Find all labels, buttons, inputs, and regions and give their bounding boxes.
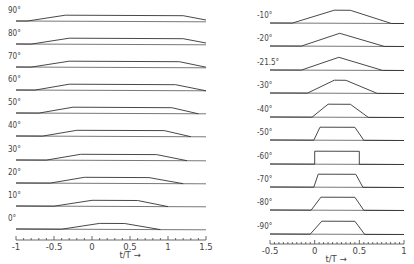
- trace-row: -80°: [257, 197, 404, 210]
- row-label: -80°: [257, 198, 272, 207]
- trace-line: [16, 38, 206, 44]
- trace-line: [16, 15, 206, 21]
- row-label: 40°: [8, 121, 21, 130]
- row-label: 60°: [8, 75, 21, 84]
- x-axis: -1-0.500.511.5t/T →: [12, 236, 213, 260]
- trace-row: -30°: [257, 80, 404, 93]
- trace-row: -70°: [257, 174, 404, 187]
- tick-label: -1: [12, 242, 20, 252]
- trace-line: [270, 151, 404, 164]
- row-label: 50°: [8, 98, 21, 107]
- trace-row: 20°: [8, 168, 206, 184]
- trace-row: -60°: [257, 151, 404, 164]
- tick-label: -0.5: [46, 242, 63, 252]
- row-label: 10°: [8, 191, 21, 200]
- row-label: 0°: [8, 214, 16, 223]
- trace-row: -10°: [257, 10, 404, 23]
- row-label: -21.5°: [257, 58, 279, 67]
- tick-label: 0: [312, 246, 317, 256]
- baseline: [16, 44, 206, 45]
- x-axis: -0.500.51t/T →: [262, 240, 407, 264]
- left-panel: 90°80°70°60°50°40°30°20°10°0°-1-0.500.51…: [8, 6, 213, 260]
- baseline: [16, 90, 206, 91]
- trace-line: [16, 200, 168, 206]
- trace-line: [270, 80, 404, 93]
- row-label: 90°: [8, 6, 21, 15]
- trace-row: 70°: [8, 52, 206, 68]
- trace-line: [270, 33, 404, 46]
- trace-row: 90°: [8, 6, 206, 22]
- trace-row: -21.5°: [257, 57, 404, 70]
- trace-row: 10°: [8, 191, 206, 207]
- trace-line: [270, 197, 404, 210]
- chart-canvas: 90°80°70°60°50°40°30°20°10°0°-1-0.500.51…: [0, 0, 414, 264]
- row-label: -70°: [257, 175, 272, 184]
- trace-row: -40°: [257, 104, 404, 117]
- trace-line: [16, 223, 160, 229]
- trace-line: [270, 57, 404, 70]
- tick-label: -0.5: [262, 246, 279, 256]
- tick-label: 0.5: [353, 246, 367, 256]
- trace-line: [16, 177, 183, 183]
- trace-row: 40°: [8, 121, 206, 137]
- row-label: 80°: [8, 29, 21, 38]
- row-label: 70°: [8, 52, 21, 61]
- trace-line: [270, 104, 404, 117]
- x-axis-label: t/T →: [325, 254, 346, 264]
- row-label: -60°: [257, 152, 272, 161]
- baseline: [16, 67, 206, 68]
- trace-row: 30°: [8, 145, 206, 161]
- trace-row: 60°: [8, 75, 206, 91]
- trace-line: [270, 221, 404, 234]
- trace-row: 0°: [8, 214, 206, 230]
- trace-line: [270, 10, 404, 23]
- row-label: -20°: [257, 34, 272, 43]
- row-label: -10°: [257, 11, 272, 20]
- trace-line: [16, 154, 187, 160]
- row-label: -30°: [257, 81, 272, 90]
- trace-line: [16, 61, 206, 67]
- row-label: -40°: [257, 105, 272, 114]
- baseline: [16, 21, 206, 22]
- row-label: 20°: [8, 168, 21, 177]
- row-label: -50°: [257, 128, 272, 137]
- x-axis-label: t/T →: [119, 250, 140, 260]
- tick-label: 1: [401, 246, 406, 256]
- trace-row: -90°: [257, 221, 404, 234]
- row-label: -90°: [257, 222, 272, 231]
- trace-line: [270, 174, 404, 187]
- trace-row: -20°: [257, 33, 404, 46]
- trace-row: 80°: [8, 29, 206, 45]
- right-panel: -10°-20°-21.5°-30°-40°-50°-60°-70°-80°-9…: [257, 10, 407, 264]
- trace-row: -50°: [257, 127, 404, 140]
- trace-line: [16, 130, 191, 136]
- tick-label: 1.5: [199, 242, 213, 252]
- trace-row: 50°: [8, 98, 206, 114]
- row-label: 30°: [8, 145, 21, 154]
- baseline: [16, 113, 206, 114]
- tick-label: 1: [165, 242, 170, 252]
- tick-label: 0: [89, 242, 94, 252]
- trace-line: [270, 127, 404, 140]
